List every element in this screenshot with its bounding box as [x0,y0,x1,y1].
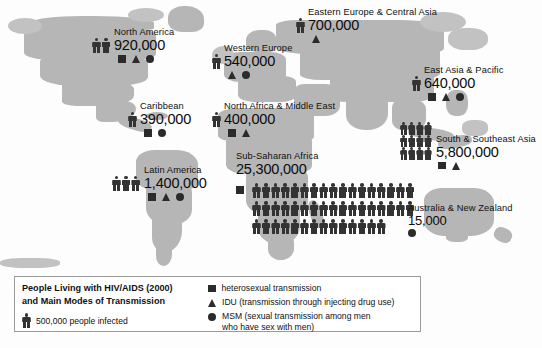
msm-circle-icon [242,71,250,79]
people-figures-latin-america [112,176,142,191]
region-value: 540,000 [224,54,292,69]
people-figures-north-africa-middle-east [212,112,222,127]
person-figure [338,219,347,234]
msm-circle-icon [176,193,184,201]
transmission-symbols-eastern-europe-central-asia [296,35,437,43]
person-figure [377,201,386,216]
heterosexual-square-icon [236,186,244,194]
person-figure [271,183,280,198]
person-figure [338,201,347,216]
person-figure [271,201,280,216]
region-marker-latin-america: Latin America 1,400,000 [112,166,207,201]
legend-title-block: People Living with HIV/AIDS (2000) and M… [22,282,208,326]
person-figure [424,122,432,135]
heterosexual-square-icon [148,193,156,201]
legend-item-label: MSM (sexual transmission among men who h… [222,311,371,332]
region-value: 5,800,000 [436,145,536,160]
person-figure [262,219,271,234]
heterosexual-square-icon [438,162,446,170]
person-figure [408,147,416,160]
people-figures-sub-saharan-africa [252,183,416,234]
region-marker-australia-new-zealand: Australia & New Zealand 15,000 [408,204,513,237]
legend-unit-row: 500,000 people infected [22,313,208,328]
person-figure [386,183,395,198]
person-figure [406,183,415,198]
transmission-symbols-australia-new-zealand [408,229,513,237]
legend-item-heterosexual: heterosexual transmission [208,283,413,294]
region-label: Sub-Saharan Africa [236,152,318,161]
person-figure [92,38,101,53]
legend-item-idu: IDU (transmission through injecting drug… [208,297,413,308]
region-marker-north-africa-middle-east: North Africa & Middle East 400,000 [212,102,335,137]
person-figure [271,219,280,234]
person-figure [348,219,357,234]
idu-triangle-icon [228,71,236,79]
person-figure [290,219,299,234]
person-figure [319,183,328,198]
person-figure [300,183,309,198]
msm-circle-icon [408,229,416,237]
region-value: 1,400,000 [144,176,207,191]
person-figure-icon [22,313,31,328]
person-figure [367,201,376,216]
person-figure [367,219,376,234]
region-label: Latin America [144,166,207,175]
region-value: 390,000 [140,112,191,127]
heterosexual-square-icon [118,55,126,63]
transmission-symbols-sub-saharan-africa [236,186,244,194]
idu-triangle-icon [312,35,320,43]
person-figure [358,201,367,216]
region-label: Western Europe [224,44,292,53]
person-figure [424,135,432,148]
person-figure [300,201,309,216]
region-marker-south-southeast-asia: South & Southeast Asia 5,800,000 [400,122,536,170]
transmission-symbols-east-asia-pacific [412,93,503,101]
person-figure [319,201,328,216]
people-figures-east-asia-pacific [412,76,422,91]
region-value: 400,000 [224,112,335,127]
person-figure [358,219,367,234]
person-figure [128,112,137,127]
person-figure [319,219,328,234]
transmission-symbols-caribbean [128,129,191,137]
region-label: Caribbean [140,102,191,111]
person-figure [122,176,131,191]
person-figure [212,112,221,127]
person-figure [329,201,338,216]
people-figures-eastern-europe-central-asia [296,18,306,33]
person-figure [408,122,416,135]
person-figure [252,219,261,234]
legend-box: People Living with HIV/AIDS (2000) and M… [14,276,421,332]
transmission-symbols-south-southeast-asia [400,162,536,170]
legend-items: heterosexual transmission IDU (transmiss… [208,282,413,326]
people-figures-north-america [92,38,112,53]
infographic-map: North America 920,000 Western Europe 540… [0,0,542,348]
person-figure [281,201,290,216]
heterosexual-square-icon [208,285,216,293]
person-figure [329,183,338,198]
legend-title-line2: and Main Modes of Transmission [22,295,208,308]
person-figure [252,183,261,198]
legend-item-label: heterosexual transmission [222,283,322,294]
region-label: North America [114,28,174,37]
region-value: 920,000 [114,38,174,53]
person-figure [252,201,261,216]
person-figure [416,135,424,148]
region-label: Eastern Europe & Central Asia [308,8,437,17]
region-marker-east-asia-pacific: East Asia & Pacific 640,000 [412,66,503,101]
person-figure [290,183,299,198]
region-label: South & Southeast Asia [436,135,536,144]
person-figure [348,183,357,198]
person-figure [377,183,386,198]
legend-title-line1: People Living with HIV/AIDS (2000) [22,282,208,295]
msm-circle-icon [158,129,166,137]
region-label: Australia & New Zealand [408,204,513,213]
region-value: 700,000 [308,18,437,33]
person-figure [386,201,395,216]
legend-unit-label: 500,000 people infected [36,316,128,326]
heterosexual-square-icon [228,129,236,137]
transmission-symbols-north-america [92,55,174,63]
person-figure [112,176,121,191]
people-figures-south-southeast-asia [400,122,434,160]
region-marker-eastern-europe-central-asia: Eastern Europe & Central Asia 700,000 [296,8,437,43]
